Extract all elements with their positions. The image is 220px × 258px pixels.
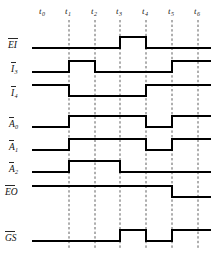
- time-tick-label-t1: t1: [65, 6, 71, 17]
- signal-label-eo: EO: [4, 187, 18, 197]
- timing-diagram: t0t1t2t3t4t5t6 EII3I4A0A1A2EOGS: [0, 0, 220, 258]
- time-tick-label-t5: t5: [168, 6, 174, 17]
- waveform-a2: [32, 161, 211, 172]
- time-tick-label-t0: t0: [39, 6, 45, 17]
- waveform-ei: [32, 37, 211, 48]
- signal-label-a1: A1: [8, 142, 18, 153]
- signal-waveforms: [32, 37, 211, 241]
- waveform-gs: [32, 230, 211, 241]
- time-tick-label-t3: t3: [116, 6, 122, 17]
- time-tick-label-t2: t2: [91, 6, 97, 17]
- waveform-a0: [32, 116, 211, 127]
- waveform-i3: [32, 61, 211, 72]
- time-tick-label-t4: t4: [142, 6, 148, 17]
- timing-diagram-canvas: t0t1t2t3t4t5t6 EII3I4A0A1A2EOGS: [0, 0, 220, 258]
- signal-label-i4: I4: [10, 88, 18, 99]
- waveform-eo: [32, 186, 211, 197]
- time-tick-label-t6: t6: [194, 6, 200, 17]
- signal-label-a2: A2: [8, 164, 18, 175]
- signal-label-gs: GS: [5, 233, 17, 243]
- signal-label-i3: I3: [10, 64, 18, 75]
- signal-name-labels: EII3I4A0A1A2EOGS: [4, 39, 19, 243]
- signal-label-a0: A0: [8, 119, 19, 130]
- time-tick-labels: t0t1t2t3t4t5t6: [39, 6, 200, 17]
- time-gridlines: [69, 20, 198, 250]
- signal-label-ei: EI: [7, 40, 18, 50]
- waveform-a1: [32, 139, 211, 150]
- waveform-i4: [32, 85, 211, 96]
